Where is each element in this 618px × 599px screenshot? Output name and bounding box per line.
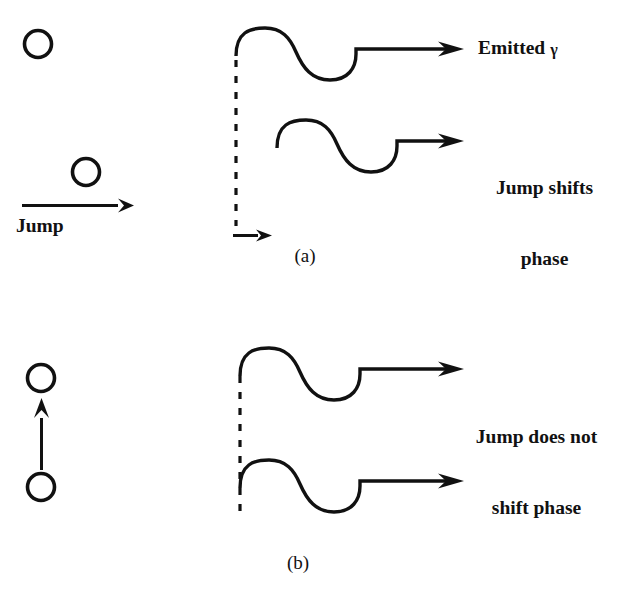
panel-b-phase-note-line1: Jump does not xyxy=(455,425,618,449)
panel-a-phase-note-line1: Jump shifts xyxy=(471,176,618,200)
figure-root: Jump Emittedγ Jump shifts phase (a) Jump… xyxy=(0,0,618,599)
panel-a-jump-tick-arrow-icon xyxy=(233,230,272,242)
panel-a-atom-before-icon xyxy=(25,31,52,58)
panel-b-wave-top xyxy=(240,348,464,400)
panel-a-jump-arrow-icon xyxy=(22,199,134,213)
panel-a-atom-after-icon xyxy=(73,159,100,186)
panel-b-wave-bottom xyxy=(240,460,464,512)
panel-b-phase-note: Jump does not shift phase xyxy=(455,377,618,567)
panel-b-atom-after-icon xyxy=(28,365,55,392)
panel-a-emitted-gamma-label: Emittedγ xyxy=(478,36,618,60)
panel-b-jump-arrow-icon xyxy=(34,398,49,470)
panel-a-phase-note: Jump shifts phase xyxy=(471,128,618,318)
panel-a-graphics xyxy=(22,28,464,242)
gamma-symbol: γ xyxy=(545,41,557,58)
panel-b-caption: (b) xyxy=(268,551,328,574)
panel-a-phase-note-line2: phase xyxy=(471,247,618,271)
panel-a-shifted-wave xyxy=(277,120,464,172)
emitted-word: Emitted xyxy=(478,37,545,58)
panel-b-phase-note-line2: shift phase xyxy=(455,496,618,520)
panel-a-jump-label: Jump xyxy=(16,214,146,238)
panel-b-graphics xyxy=(28,348,465,512)
panel-a-emitted-wave xyxy=(236,28,464,80)
panel-a-caption: (a) xyxy=(275,244,335,267)
panel-b-atom-before-icon xyxy=(28,474,55,501)
